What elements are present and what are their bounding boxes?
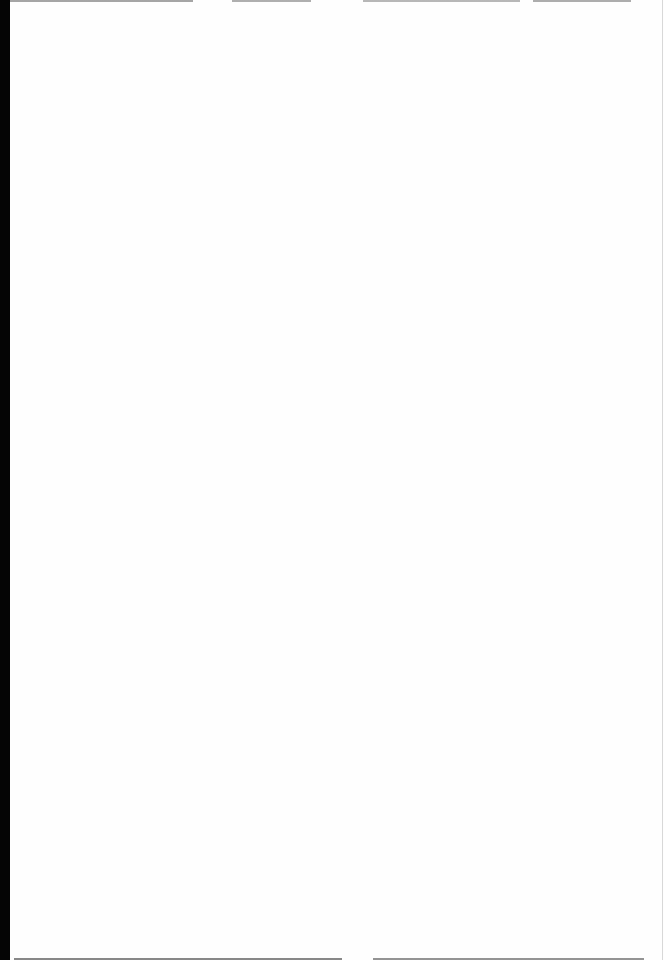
blank-page-body (10, 2, 662, 958)
scanned-page (0, 0, 664, 960)
scan-edge-right (662, 0, 663, 960)
scan-edge-left (0, 0, 10, 960)
